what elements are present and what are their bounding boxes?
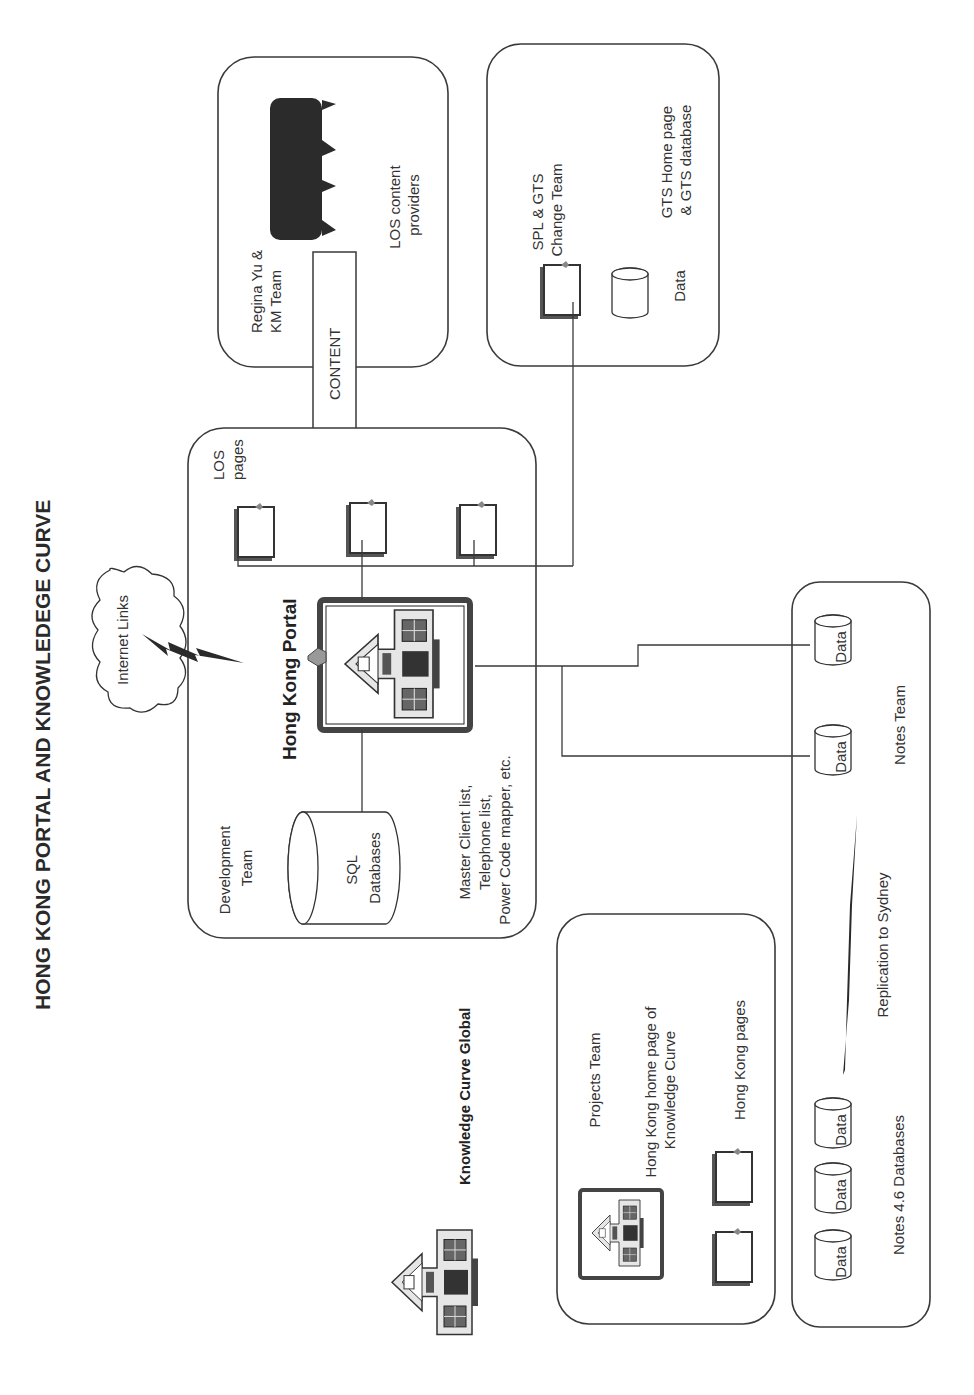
gts-page-icon [540, 261, 580, 319]
los-page-icon-1 [234, 503, 274, 561]
hk-page-icon-2 [712, 1228, 752, 1286]
hong-kong-portal-label: Hong Kong Portal [279, 599, 300, 760]
architecture-diagram: HONG KONG PORTAL AND KNOWLEDEGE CURVE Re… [0, 0, 974, 1395]
notes-database-label-1: Data [832, 631, 849, 663]
notes46-database-label-2: Data [832, 1179, 849, 1211]
projects-group: Projects Team Hong Kong home page of Kno… [557, 914, 775, 1324]
notes-database-label-2: Data [832, 741, 849, 773]
gts-database-label: Data [671, 270, 688, 302]
content-arrow-label: CONTENT [326, 328, 343, 401]
diagram-title: HONG KONG PORTAL AND KNOWLEDEGE CURVE [31, 500, 54, 1010]
notes46-database-label-3: Data [832, 1246, 849, 1278]
notes-group: Data Data Notes Team Replication to Sydn… [792, 582, 930, 1327]
knowledge-curve-global-label: Knowledge Curve Global [456, 1007, 473, 1185]
hk-pages-label: Hong Kong pages [731, 1000, 748, 1120]
notes46-databases-label: Notes 4.6 Databases [890, 1115, 907, 1255]
notes46-database-label-1: Data [832, 1114, 849, 1146]
internet-links-label: Internet Links [114, 595, 131, 685]
notes-team-label: Notes Team [891, 685, 908, 765]
gts-database-icon [612, 268, 648, 318]
los-page-icon-2 [346, 499, 386, 557]
hk-page-icon-1 [712, 1148, 752, 1206]
replication-label: Replication to Sydney [874, 872, 891, 1018]
los-page-icon-3 [456, 501, 496, 559]
spl-gts-group: SPL & GTS Change Team GTS Home page & GT… [487, 44, 719, 366]
projects-team-label: Projects Team [586, 1033, 603, 1128]
hong-kong-portal-icon [308, 600, 470, 730]
knowledge-curve-global-house-icon [392, 1230, 478, 1335]
portal-group: LOS pages Hong Kong Portal SQL Databases… [188, 428, 536, 938]
knowledge-curve-home-icon [580, 1190, 662, 1278]
